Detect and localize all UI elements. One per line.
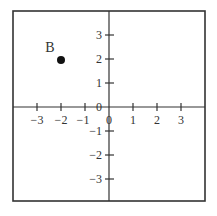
y-tick-label: −3 <box>89 172 102 186</box>
y-tick-label: 1 <box>96 76 102 90</box>
x-tick-label: 2 <box>154 113 160 127</box>
point-b-label: B <box>45 40 54 55</box>
coordinate-plane: −3 −2 −1 0 1 2 3 3 2 1 0 −1 −2 −3 B <box>0 0 217 216</box>
y-tick-label: 3 <box>96 28 102 42</box>
y-tick-label: 2 <box>96 52 102 66</box>
y-tick-label: −1 <box>89 124 102 138</box>
y-tick-label: 0 <box>96 100 102 114</box>
y-tick-label: −2 <box>89 148 102 162</box>
x-tick-label: 1 <box>130 113 136 127</box>
x-tick-label: −1 <box>77 113 90 127</box>
x-tick-label: 3 <box>178 113 184 127</box>
x-tick-label: −2 <box>55 113 68 127</box>
x-tick-label: −3 <box>31 113 44 127</box>
point-b-marker <box>57 56 65 64</box>
x-tick-label: 0 <box>106 113 112 127</box>
